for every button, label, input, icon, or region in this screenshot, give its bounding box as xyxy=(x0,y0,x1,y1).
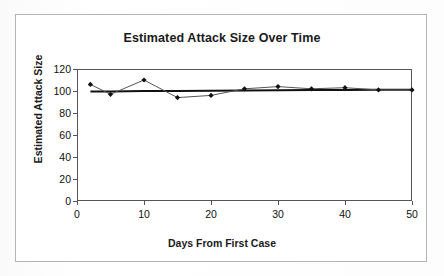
x-tick-label: 50 xyxy=(406,208,418,220)
plot-wrapper: 020406080100120 01020304050 xyxy=(77,69,412,201)
data-point-marker xyxy=(88,82,93,87)
y-tick-label: 40 xyxy=(59,151,71,163)
y-tick-label: 0 xyxy=(65,195,71,207)
x-tick-label: 0 xyxy=(74,208,80,220)
x-tick-mark xyxy=(144,201,145,205)
y-tick-label: 20 xyxy=(59,173,71,185)
y-tick-label: 60 xyxy=(59,129,71,141)
data-point-marker xyxy=(376,87,381,92)
x-tick-label: 20 xyxy=(205,208,217,220)
data-point-marker xyxy=(409,87,414,92)
data-point-marker xyxy=(208,93,213,98)
y-tick-label: 100 xyxy=(53,85,71,97)
x-tick-mark xyxy=(77,201,78,205)
x-tick-mark xyxy=(278,201,279,205)
y-tick-label: 120 xyxy=(53,63,71,75)
y-axis-title: Estimated Attack Size xyxy=(32,39,44,179)
x-tick-label: 10 xyxy=(138,208,150,220)
data-point-marker xyxy=(275,84,280,89)
chart-figure-frame: Estimated Attack Size Over Time Estimate… xyxy=(15,14,427,262)
x-tick-mark xyxy=(211,201,212,205)
series-line-path xyxy=(90,80,412,98)
x-tick-mark xyxy=(412,201,413,205)
data-point-marker xyxy=(141,77,146,82)
data-series-layer xyxy=(77,69,412,201)
y-tick-label: 80 xyxy=(59,107,71,119)
data-point-marker xyxy=(175,95,180,100)
x-tick-label: 30 xyxy=(272,208,284,220)
x-tick-mark xyxy=(345,201,346,205)
x-axis-title: Days From First Case xyxy=(16,237,428,249)
chart-title: Estimated Attack Size Over Time xyxy=(16,31,428,45)
trendline-path xyxy=(90,90,412,92)
x-tick-label: 40 xyxy=(339,208,351,220)
data-point-marker xyxy=(108,92,113,97)
